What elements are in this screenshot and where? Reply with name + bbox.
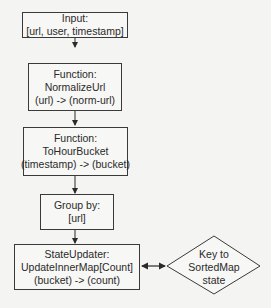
node-input-line-1: Input:: [62, 12, 88, 25]
node-normalize-url-line-2: NormalizeUrl: [45, 81, 106, 94]
node-input-line-2: [url, user, timestamp]: [26, 25, 123, 38]
node-group-by: Group by: [url]: [40, 194, 114, 230]
node-state-updater-line-3: (bucket) -> (count): [34, 274, 120, 287]
node-group-by-line-2: [url]: [68, 212, 86, 225]
node-normalize-url-line-1: Function:: [53, 68, 96, 81]
node-to-hour-bucket-line-1: Function:: [54, 132, 97, 145]
node-sorted-map-state-line-2: SortedMap: [173, 261, 255, 274]
node-sorted-map-state-line-3: state: [173, 274, 255, 287]
node-to-hour-bucket-line-3: (timestamp) -> (bucket): [21, 158, 130, 171]
node-group-by-line-1: Group by:: [54, 199, 100, 212]
node-state-updater-line-2: UpdateInnerMap[Count]: [21, 261, 133, 274]
node-sorted-map-state-line-1: Key to: [173, 248, 255, 261]
node-normalize-url: Function: NormalizeUrl (url) -> (norm-ur…: [28, 63, 122, 111]
node-state-updater-line-1: StateUpdater:: [45, 248, 110, 261]
node-normalize-url-line-3: (url) -> (norm-url): [35, 94, 115, 107]
node-input: Input: [url, user, timestamp]: [22, 12, 128, 38]
node-to-hour-bucket: Function: ToHourBucket (timestamp) -> (b…: [23, 127, 128, 176]
node-sorted-map-state: Key to SortedMap state: [173, 248, 255, 287]
node-to-hour-bucket-line-2: ToHourBucket: [43, 145, 109, 158]
node-state-updater: StateUpdater: UpdateInnerMap[Count] (buc…: [14, 244, 140, 290]
